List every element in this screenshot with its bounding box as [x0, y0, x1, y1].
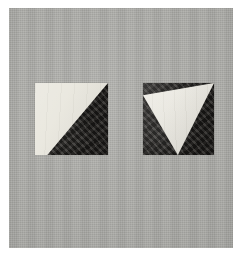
image-canvas — [0, 0, 240, 254]
gray-backing-board — [9, 8, 233, 248]
left-square-dark-triangle — [35, 83, 108, 155]
left-square-specimen — [35, 83, 108, 155]
right-square-specimen — [143, 83, 214, 155]
